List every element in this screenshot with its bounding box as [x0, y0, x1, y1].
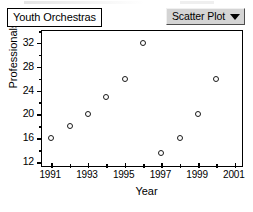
chevron-down-icon	[230, 14, 240, 20]
y-axis-tick-label: 28	[16, 60, 34, 71]
chart-app: Youth Orchestras Scatter Plot 1991199319…	[0, 0, 253, 212]
y-axis-tick	[37, 162, 42, 164]
plot-area	[41, 30, 243, 167]
x-axis-tick	[235, 163, 237, 168]
y-axis-tick	[37, 114, 42, 116]
x-axis-tick	[161, 163, 163, 168]
chart-title-label: Youth Orchestras	[13, 12, 96, 23]
data-point[interactable]	[195, 111, 201, 117]
plot-canvas	[42, 31, 242, 166]
top-edge-artifact	[24, 1, 144, 4]
data-point[interactable]	[67, 123, 73, 129]
y-axis-minor-tick	[39, 55, 42, 57]
y-axis-tick-label: 32	[16, 37, 34, 48]
y-axis-minor-tick	[39, 150, 42, 152]
x-axis-tick	[198, 163, 200, 168]
x-axis-tick-label: 1997	[150, 170, 171, 180]
y-axis-minor-tick	[39, 102, 42, 104]
chart-title-box[interactable]: Youth Orchestras	[7, 8, 102, 27]
x-axis-minor-tick	[143, 164, 145, 168]
plot-type-dropdown[interactable]: Scatter Plot	[166, 8, 245, 25]
top-edge-artifact-right	[180, 1, 214, 4]
data-point[interactable]	[140, 40, 146, 46]
y-axis-tick-label: 24	[16, 84, 34, 95]
y-axis-minor-tick	[39, 79, 42, 81]
x-axis-minor-tick	[180, 164, 182, 168]
x-axis-tick	[125, 163, 127, 168]
x-axis-tick-label: 1999	[186, 170, 207, 180]
data-point[interactable]	[158, 150, 164, 156]
y-axis-minor-tick	[39, 31, 42, 33]
x-axis-tick-label: 2001	[223, 170, 244, 180]
x-axis-minor-tick	[216, 164, 218, 168]
x-axis-minor-tick	[106, 164, 108, 168]
x-axis-tick	[51, 163, 53, 168]
y-axis-tick	[37, 91, 42, 93]
y-axis-tick	[37, 138, 42, 140]
data-point[interactable]	[48, 135, 54, 141]
data-point[interactable]	[103, 94, 109, 100]
x-axis-tick-label: 1993	[76, 170, 97, 180]
y-axis-tick	[37, 67, 42, 69]
x-axis-minor-tick	[70, 164, 72, 168]
y-axis-minor-tick	[39, 126, 42, 128]
data-point[interactable]	[85, 111, 91, 117]
y-axis-tick-label: 12	[16, 156, 34, 167]
y-axis-tick	[37, 43, 42, 45]
data-point[interactable]	[213, 76, 219, 82]
data-point[interactable]	[122, 76, 128, 82]
plot-type-value: Scatter Plot	[172, 11, 225, 22]
x-axis-tick-label: 1995	[113, 170, 134, 180]
y-axis-tick-label: 16	[16, 132, 34, 143]
x-axis-tick	[88, 163, 90, 168]
data-point[interactable]	[177, 135, 183, 141]
x-axis-tick-label: 1991	[39, 170, 60, 180]
x-axis-title: Year	[0, 186, 253, 197]
y-axis-tick-label: 20	[16, 108, 34, 119]
